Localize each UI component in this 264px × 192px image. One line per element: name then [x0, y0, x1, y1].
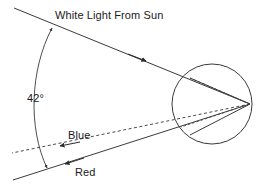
raindrop-circle — [172, 64, 252, 144]
blue-ray — [12, 104, 250, 153]
rainbow-refraction-diagram: White Light From Sun 42° Blue Red — [0, 0, 264, 192]
red-ray-label: Red — [75, 166, 95, 178]
angle-label: 42° — [27, 92, 44, 104]
internal-blue-path-out — [181, 104, 250, 127]
blue-ray-label: Blue — [68, 129, 90, 141]
internal-red-path-out — [190, 104, 250, 135]
internal-red-path-in — [190, 78, 250, 104]
blue-ray-arrowhead — [60, 142, 80, 146]
white-light-label: White Light From Sun — [55, 9, 163, 21]
red-ray-arrowhead — [65, 158, 84, 164]
incoming-ray-arrowhead — [128, 54, 146, 61]
